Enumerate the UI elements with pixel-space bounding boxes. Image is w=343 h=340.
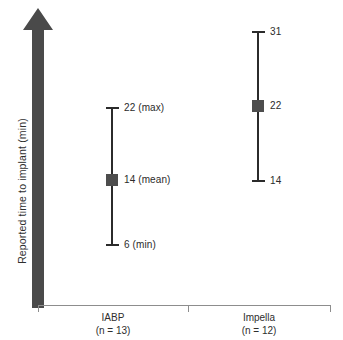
x-axis-category-iabp-n: (n = 13) bbox=[63, 324, 163, 337]
chart-figure: Reported time to implant (min) 22 (max) … bbox=[0, 0, 343, 340]
impella-max-label: 31 bbox=[270, 26, 281, 37]
iabp-min-label: 6 (min) bbox=[124, 239, 156, 250]
x-axis-category-impella-name: Impella bbox=[209, 311, 309, 324]
impella-min-label: 14 bbox=[270, 175, 281, 186]
impella-whisker-line bbox=[257, 31, 259, 182]
x-axis-tick-right bbox=[330, 305, 331, 312]
iabp-mean-marker bbox=[106, 174, 118, 186]
x-axis-line bbox=[38, 305, 331, 306]
iabp-whisker-line bbox=[111, 107, 113, 246]
iabp-min-cap bbox=[106, 244, 119, 246]
impella-min-cap bbox=[252, 180, 265, 182]
iabp-mean-label: 14 (mean) bbox=[124, 174, 170, 185]
x-axis-tick-left bbox=[38, 305, 39, 312]
x-axis-tick-middle bbox=[188, 305, 189, 312]
iabp-max-cap bbox=[106, 107, 119, 109]
y-axis-title: Reported time to implant (min) bbox=[16, 86, 28, 296]
x-axis-category-impella-n: (n = 12) bbox=[209, 324, 309, 337]
x-axis-category-impella: Impella (n = 12) bbox=[209, 311, 309, 337]
iabp-max-label: 22 (max) bbox=[124, 102, 164, 113]
x-axis-category-iabp-name: IABP bbox=[63, 311, 163, 324]
impella-mean-marker bbox=[252, 100, 264, 112]
impella-mean-label: 22 bbox=[270, 100, 281, 111]
x-axis-category-iabp: IABP (n = 13) bbox=[63, 311, 163, 337]
impella-max-cap bbox=[252, 31, 265, 33]
